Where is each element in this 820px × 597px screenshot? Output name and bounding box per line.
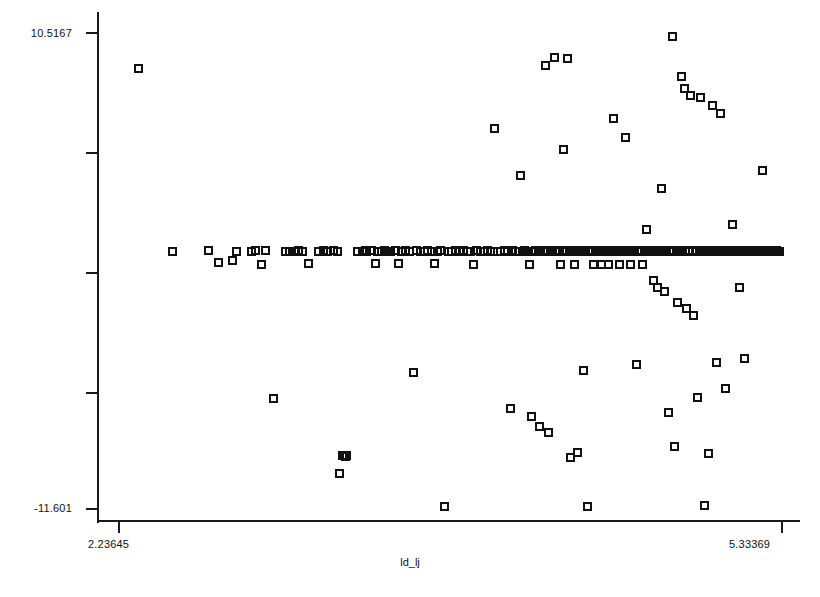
data-point (604, 260, 613, 269)
data-point (660, 287, 669, 296)
data-point (134, 64, 143, 73)
data-point (615, 260, 624, 269)
data-point (563, 54, 572, 63)
data-point (541, 61, 550, 70)
scatter-plot: 10.5167 -11.601 2.23645 5.33369 ld_lj (0, 0, 820, 597)
data-point (544, 428, 553, 437)
data-point (686, 91, 695, 100)
data-point (525, 260, 534, 269)
data-point (657, 184, 666, 193)
data-point (700, 501, 709, 510)
data-point (728, 220, 737, 229)
data-point (626, 260, 635, 269)
data-point (214, 258, 223, 267)
data-point (721, 384, 730, 393)
data-point (261, 246, 270, 255)
data-point (430, 259, 439, 268)
data-point (689, 311, 698, 320)
data-point (573, 448, 582, 457)
data-point (550, 53, 559, 62)
data-point (228, 256, 237, 265)
data-point (740, 354, 749, 363)
data-point (506, 404, 515, 413)
data-point (304, 259, 313, 268)
data-point (668, 32, 677, 41)
data-point (469, 260, 478, 269)
data-point (670, 442, 679, 451)
data-point (638, 260, 647, 269)
data-point (775, 247, 784, 256)
data-point (251, 246, 260, 255)
data-point (298, 247, 307, 256)
data-point (232, 247, 241, 256)
data-point (642, 225, 651, 234)
data-point (257, 260, 266, 269)
data-point (269, 394, 278, 403)
data-point (716, 109, 725, 118)
data-point (527, 412, 536, 421)
data-point (704, 449, 713, 458)
data-point (440, 502, 449, 511)
data-point (735, 283, 744, 292)
data-point (632, 360, 641, 369)
data-point (342, 451, 351, 460)
data-point (490, 124, 499, 133)
data-point (583, 502, 592, 511)
data-point (409, 368, 418, 377)
data-point (696, 93, 705, 102)
data-point (168, 247, 177, 256)
data-point (712, 358, 721, 367)
data-point (204, 246, 213, 255)
data-point-layer (0, 0, 820, 597)
data-point (556, 260, 565, 269)
data-point (609, 114, 618, 123)
data-point (559, 145, 568, 154)
data-point (758, 166, 767, 175)
data-point (693, 393, 702, 402)
data-point (516, 171, 525, 180)
data-point (335, 469, 344, 478)
data-point (579, 366, 588, 375)
data-point (673, 298, 682, 307)
data-point (333, 247, 342, 256)
data-point (535, 422, 544, 431)
data-point (664, 408, 673, 417)
data-point (621, 133, 630, 142)
data-point (677, 72, 686, 81)
data-point (570, 260, 579, 269)
data-point (371, 259, 380, 268)
data-point (394, 259, 403, 268)
